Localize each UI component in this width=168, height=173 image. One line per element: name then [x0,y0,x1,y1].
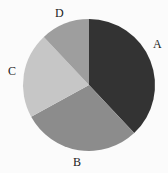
pie-slices [23,19,155,151]
label-d: D [55,6,64,20]
label-c: C [8,64,16,78]
pie-chart: A B C D [0,0,168,173]
label-a: A [153,37,162,51]
label-b: B [73,155,81,169]
